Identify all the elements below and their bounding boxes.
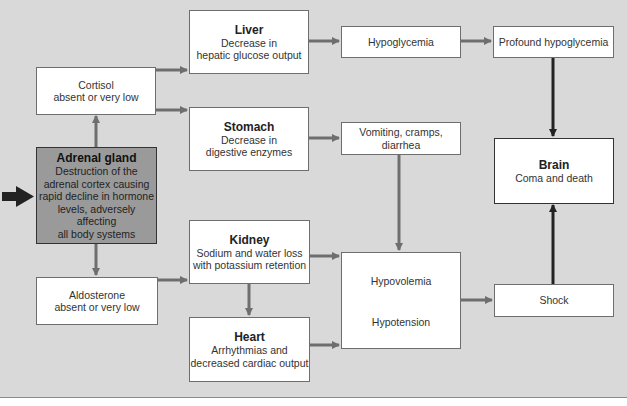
- node-liver: Liver Decrease in hepatic glucose output: [189, 10, 309, 74]
- node-title: Heart: [234, 330, 265, 344]
- node-text: Aldosterone: [69, 289, 125, 302]
- node-text: rapid decline in hormone: [39, 190, 154, 203]
- node-shock: Shock: [494, 284, 614, 317]
- node-text: Profound hypoglycemia: [499, 36, 609, 49]
- node-text: Shock: [539, 294, 568, 307]
- node-text: all body systems: [58, 228, 136, 241]
- node-title: Kidney: [229, 233, 269, 247]
- node-text: Coma and death: [515, 172, 593, 185]
- node-cortisol: Cortisol absent or very low: [36, 67, 156, 115]
- node-text: levels, adversely affecting: [37, 203, 156, 228]
- node-profound-hypoglycemia: Profound hypoglycemia: [493, 26, 614, 58]
- node-text: Hypoglycemia: [368, 36, 434, 49]
- node-text: Arrhythmias and: [211, 344, 287, 357]
- node-title: Stomach: [224, 120, 275, 134]
- node-text: Decrease in: [221, 134, 277, 147]
- node-text: hepatic glucose output: [196, 49, 301, 62]
- node-brain: Brain Coma and death: [494, 138, 614, 204]
- node-text-hypotension: Hypotension: [372, 316, 430, 329]
- node-text: Vomiting, cramps, diarrhea: [342, 126, 460, 151]
- node-text-hypovolemia: Hypovolemia: [371, 275, 432, 288]
- node-text: adrenal cortex causing: [44, 178, 150, 191]
- node-title: Adrenal gland: [56, 151, 136, 165]
- node-text: Decrease in: [221, 37, 277, 50]
- node-hypovolemia-hypotension: Hypovolemia Hypotension: [341, 252, 461, 349]
- node-stomach: Stomach Decrease in digestive enzymes: [189, 107, 309, 171]
- node-text: Sodium and water loss: [196, 247, 302, 260]
- node-hypoglycemia: Hypoglycemia: [341, 26, 461, 58]
- node-text: with potassium retention: [193, 259, 306, 272]
- node-text: absent or very low: [53, 91, 138, 104]
- entry-arrow-icon: [2, 186, 34, 207]
- node-text: digestive enzymes: [206, 146, 292, 159]
- node-text: Destruction of the: [55, 165, 137, 178]
- node-title: Liver: [235, 23, 264, 37]
- node-text: decreased cardiac output: [191, 357, 309, 370]
- node-text: absent or very low: [54, 301, 139, 314]
- node-vomiting: Vomiting, cramps, diarrhea: [341, 122, 461, 155]
- node-adrenal-gland: Adrenal gland Destruction of the adrenal…: [36, 147, 157, 244]
- node-aldosterone: Aldosterone absent or very low: [36, 277, 158, 325]
- node-heart: Heart Arrhythmias and decreased cardiac …: [189, 317, 310, 382]
- node-kidney: Kidney Sodium and water loss with potass…: [189, 220, 310, 284]
- node-title: Brain: [539, 158, 570, 172]
- node-text: Cortisol: [78, 79, 114, 92]
